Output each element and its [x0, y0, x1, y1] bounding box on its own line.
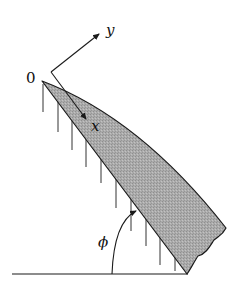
- origin-label: 0: [26, 69, 36, 87]
- wedge-body: [42, 81, 226, 274]
- y-axis-label: y: [105, 21, 115, 39]
- y-axis-arrow: [51, 34, 99, 72]
- wedge-diagram: 0 y x ϕ: [0, 0, 237, 290]
- angle-arc: [112, 211, 136, 274]
- angle-label: ϕ: [98, 233, 108, 251]
- x-axis-label: x: [91, 117, 100, 135]
